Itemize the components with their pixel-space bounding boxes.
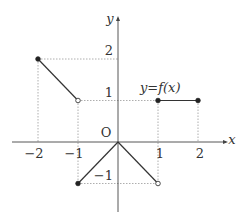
function-graph: −2−11221−1Oxyy=f(x) [0, 0, 242, 219]
x-tick-label: 2 [196, 146, 204, 161]
open-endpoint [156, 181, 161, 186]
y-axis-label: y [105, 11, 114, 26]
y-axis-arrow-icon [116, 16, 120, 21]
segment-2 [118, 142, 158, 184]
y-tick-label: 2 [105, 43, 113, 58]
x-tick-label: −2 [24, 146, 43, 161]
closed-endpoint [156, 98, 161, 103]
y-tick-label: −1 [94, 168, 113, 183]
closed-endpoint [76, 181, 81, 186]
closed-endpoint [196, 98, 201, 103]
x-tick-label: −1 [64, 146, 83, 161]
function-label: y=f(x) [139, 80, 181, 95]
axis-labels: −2−11221−1Oxyy=f(x) [24, 11, 236, 183]
x-tick-label: 1 [156, 146, 164, 161]
segment-0 [38, 59, 78, 101]
axes [12, 16, 228, 212]
open-endpoint [76, 98, 81, 103]
x-axis-label: x [228, 132, 236, 147]
y-tick-label: 1 [105, 85, 113, 100]
x-axis-arrow-icon [223, 140, 228, 144]
closed-endpoint [36, 57, 41, 62]
origin-label: O [101, 125, 112, 140]
